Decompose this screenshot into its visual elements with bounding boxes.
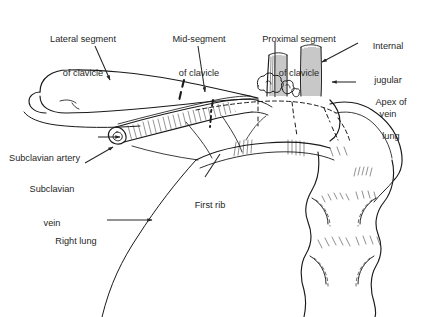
label-apex-of-lung: Apex of lung: [362, 75, 420, 165]
label-apex-of-lung-line1: Apex of: [362, 97, 420, 108]
label-proximal-segment-line2: of clavicle: [243, 68, 355, 79]
apex-of-lung: [330, 100, 340, 141]
label-apex-of-lung-line2: lung: [362, 131, 420, 142]
label-mid-segment-line2: of clavicle: [151, 68, 247, 79]
label-subclavian-vein-line1: Subclavian: [21, 184, 83, 195]
label-proximal-segment-line1: Proximal segment: [243, 34, 355, 45]
label-lateral-segment-line2: of clavicle: [27, 68, 139, 79]
label-mid-segment-line1: Mid-segment: [151, 34, 247, 45]
first-rib: [196, 140, 334, 168]
anatomical-figure: Lateral segment of clavicle Mid-segment …: [0, 0, 425, 317]
hidden-structures-dashed: [196, 100, 350, 142]
sternum-and-ribs: [301, 147, 393, 317]
label-lateral-segment-of-clavicle: Lateral segment of clavicle: [27, 12, 139, 102]
label-lateral-segment-line1: Lateral segment: [27, 34, 139, 45]
label-right-lung: Right lung: [47, 214, 105, 270]
label-mid-segment-of-clavicle: Mid-segment of clavicle: [151, 12, 247, 102]
label-internal-jugular-vein-line1: Internal: [357, 41, 419, 52]
label-proximal-segment-of-clavicle: Proximal segment of clavicle: [243, 12, 355, 102]
label-first-rib: First rib: [181, 178, 239, 234]
label-first-rib-line1: First rib: [181, 200, 239, 211]
label-right-lung-line1: Right lung: [47, 236, 105, 247]
